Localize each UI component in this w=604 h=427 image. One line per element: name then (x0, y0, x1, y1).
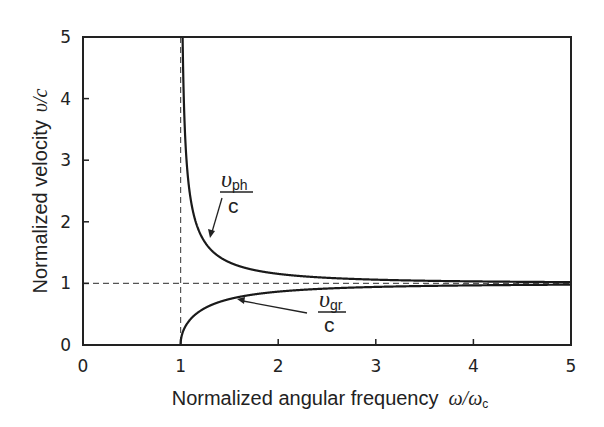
x-tick-label: 5 (566, 356, 577, 376)
x-tick-label: 0 (78, 356, 89, 376)
x-tick-label: 1 (175, 356, 186, 376)
group-velocity-curve (181, 285, 571, 345)
svg-text:υgr: υgr (319, 286, 343, 313)
svg-text:υph: υph (221, 166, 248, 193)
velocity-chart: 012345012345 Normalized velocityυ/c Norm… (0, 0, 604, 427)
x-axis-title: Normalized angular frequencyω/ωc (172, 387, 489, 411)
svg-text:c: c (324, 313, 335, 336)
svg-text:c: c (228, 194, 239, 217)
y-tick-label: 2 (60, 212, 71, 232)
tick-labels: 012345012345 (60, 27, 576, 376)
y-tick-label: 5 (60, 27, 71, 47)
annotation-phase-velocity: υph c (208, 166, 253, 238)
x-tick-label: 4 (468, 356, 479, 376)
x-tick-label: 3 (370, 356, 381, 376)
y-tick-label: 4 (60, 89, 71, 109)
y-tick-label: 0 (60, 335, 71, 355)
y-tick-label: 1 (60, 273, 71, 293)
phase-velocity-curve (183, 37, 571, 282)
y-tick-label: 3 (60, 150, 71, 170)
x-tick-label: 2 (273, 356, 284, 376)
y-axis-title: Normalized velocityυ/c (29, 88, 51, 293)
